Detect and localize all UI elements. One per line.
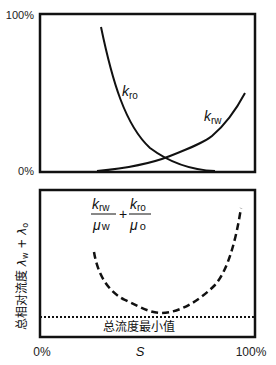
y-tick-100: 100% — [6, 9, 34, 21]
krw-label: krw — [204, 108, 222, 126]
minimum-mobility-label: 总流度最小值 — [103, 319, 175, 334]
formula-plus: + — [119, 206, 127, 222]
total-mobility-curve — [94, 208, 241, 313]
kro-curve — [101, 27, 215, 171]
x-axis-label-s: S — [136, 344, 145, 359]
top-panel: 100% 0% kro krw — [6, 9, 255, 177]
formula-den1: μw — [92, 217, 110, 233]
x-tick-100: 100% — [236, 345, 267, 359]
formula-num1: krw — [92, 196, 110, 213]
bottom-plot-frame — [40, 190, 255, 337]
formula-den2: μo — [129, 217, 146, 233]
y-axis-label: 总相对流度 λw + λo — [14, 223, 30, 330]
x-tick-0: 0% — [33, 345, 51, 359]
chart-figure: 100% 0% kro krw krw μw + kro μo 总流度最小值 总… — [0, 0, 276, 365]
top-plot-frame — [40, 14, 255, 172]
formula-num2: kro — [130, 196, 146, 213]
bottom-panel: krw μw + kro μo 总流度最小值 总相对流度 λw + λo 0% … — [14, 190, 267, 359]
krw-curve — [97, 93, 245, 171]
kro-label: kro — [122, 83, 138, 101]
mobility-formula: krw μw + kro μo — [91, 196, 151, 233]
y-tick-0: 0% — [18, 165, 34, 177]
